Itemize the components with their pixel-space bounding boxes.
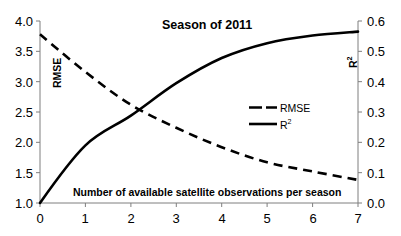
inner-label-r2: R2 xyxy=(346,56,359,68)
x-axis-ticks xyxy=(40,203,358,207)
inner-label-rmse: RMSE xyxy=(51,58,63,88)
y2-tick-label: 0.2 xyxy=(367,136,401,149)
y-tick-label: 1.0 xyxy=(3,197,33,210)
y-tick-label: 3.0 xyxy=(3,76,33,89)
legend-label-rmse: RMSE xyxy=(280,102,310,114)
x-tick-label: 2 xyxy=(121,212,141,225)
chart-title: Season of 2011 xyxy=(162,18,252,32)
legend-label-r2: R2 xyxy=(280,118,292,131)
y2-tick-label: 0.6 xyxy=(367,15,401,28)
y2-tick-label: 0.1 xyxy=(367,167,401,180)
x-tick-label: 7 xyxy=(348,212,368,225)
chart-figure: Season of 2011 4.0 3.5 3.0 2.5 2.0 1.5 1… xyxy=(0,0,401,236)
series-line-r2 xyxy=(40,32,358,203)
y-tick-label: 2.0 xyxy=(3,136,33,149)
y2-tick-label: 0.4 xyxy=(367,76,401,89)
x-tick-label: 6 xyxy=(303,212,323,225)
y-tick-label: 2.5 xyxy=(3,106,33,119)
y-tick-label: 1.5 xyxy=(3,167,33,180)
chart-canvas xyxy=(0,0,401,236)
x-tick-label: 4 xyxy=(212,212,232,225)
legend-swatches xyxy=(249,108,277,125)
series-paths xyxy=(40,32,358,203)
y2-tick-label: 0.0 xyxy=(367,197,401,210)
x-tick-label: 1 xyxy=(75,212,95,225)
y2-tick-label: 0.5 xyxy=(367,45,401,58)
y-tick-label: 3.5 xyxy=(3,45,33,58)
x-tick-label: 3 xyxy=(166,212,186,225)
x-tick-label: 5 xyxy=(257,212,277,225)
x-tick-label: 0 xyxy=(30,212,50,225)
x-axis-title: Number of available satellite observatio… xyxy=(73,186,341,198)
left-axis-ticks xyxy=(36,21,40,203)
right-axis-ticks xyxy=(358,21,362,203)
y2-tick-label: 0.3 xyxy=(367,106,401,119)
y-tick-label: 4.0 xyxy=(3,15,33,28)
